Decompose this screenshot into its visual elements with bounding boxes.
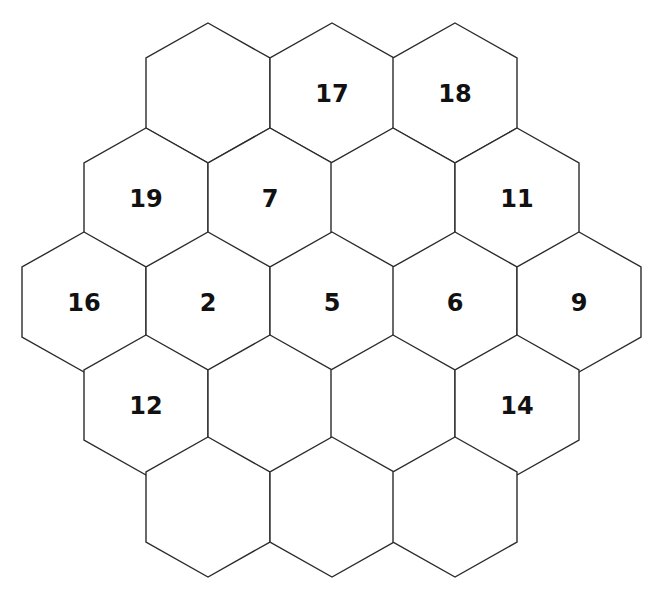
hex-label: 5 — [324, 289, 341, 317]
hex-label: 18 — [438, 80, 471, 108]
hex-label: 16 — [67, 289, 100, 317]
hex-label: 9 — [571, 289, 588, 317]
hex-label: 19 — [129, 185, 162, 213]
hex-label: 14 — [500, 392, 533, 420]
hex-board: 17 18 19 7 11 16 2 5 6 9 12 14 — [0, 0, 661, 602]
hex-label: 6 — [447, 289, 464, 317]
hex-label: 7 — [262, 185, 279, 213]
hex-label: 17 — [315, 80, 348, 108]
hex-label: 11 — [500, 185, 533, 213]
hex-label: 2 — [200, 289, 217, 317]
hex-label: 12 — [129, 392, 162, 420]
